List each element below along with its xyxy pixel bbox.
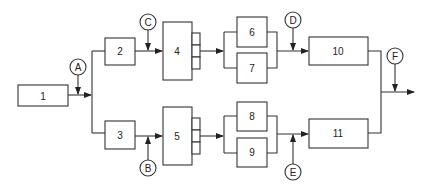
block-3[interactable]: 3 — [105, 121, 135, 149]
node-A-label: A — [75, 62, 82, 73]
block-2-label: 2 — [117, 46, 123, 57]
node-B[interactable]: B — [140, 160, 156, 176]
node-E-label: E — [290, 167, 297, 178]
node-F[interactable]: F — [387, 48, 403, 64]
bus-67-in — [224, 32, 237, 68]
block-1-label: 1 — [40, 91, 46, 102]
block-8-label: 8 — [249, 111, 255, 122]
bus-89-in — [224, 116, 237, 153]
node-F-label: F — [392, 51, 398, 62]
block-11-label: 11 — [333, 128, 344, 139]
block-9[interactable]: 9 — [237, 138, 267, 167]
block-3-label: 3 — [117, 130, 123, 141]
block-4[interactable]: 4 — [163, 22, 200, 80]
node-D-label: D — [289, 15, 296, 26]
merge-bus — [368, 51, 381, 133]
node-E[interactable]: E — [285, 164, 301, 180]
block-10-label: 10 — [332, 46, 344, 57]
block-7[interactable]: 7 — [237, 53, 267, 83]
bus-67-out — [267, 32, 308, 68]
block-2[interactable]: 2 — [105, 38, 135, 65]
block-6[interactable]: 6 — [237, 17, 267, 47]
node-A[interactable]: A — [70, 59, 86, 75]
block-6-label: 6 — [249, 27, 255, 38]
block-8[interactable]: 8 — [237, 102, 267, 131]
block-9-label: 9 — [249, 147, 255, 158]
block-5[interactable]: 5 — [163, 107, 200, 165]
bus-89-out — [267, 116, 308, 153]
block-10[interactable]: 10 — [309, 37, 368, 65]
node-B-label: B — [145, 163, 152, 174]
block-5-label: 5 — [174, 131, 180, 142]
block-4-label: 4 — [174, 46, 180, 57]
block-7-label: 7 — [249, 63, 255, 74]
block-11[interactable]: 11 — [309, 119, 368, 148]
block-1[interactable]: 1 — [18, 85, 68, 106]
block-diagram: 1 2 3 4 5 6 7 8 9 10 — [0, 0, 432, 193]
node-D[interactable]: D — [285, 12, 301, 28]
node-C-label: C — [144, 17, 151, 28]
node-C[interactable]: C — [140, 14, 156, 30]
